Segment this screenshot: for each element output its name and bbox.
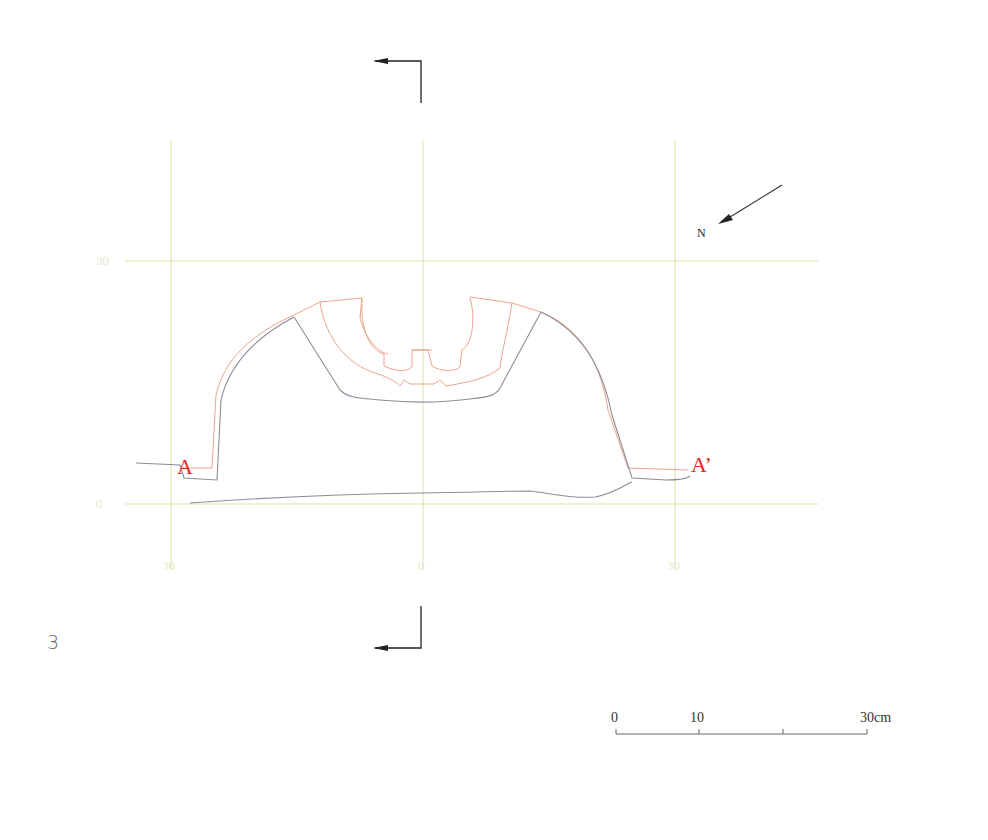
- section-marker-top: [373, 58, 421, 103]
- scale-label-10: 10: [690, 710, 704, 726]
- figure-number: 3: [47, 631, 59, 653]
- section-marker-bottom: [373, 606, 421, 651]
- north-label: N: [697, 226, 706, 241]
- drawing-canvas: [0, 0, 988, 840]
- section-label-end: A’: [691, 452, 712, 478]
- grid-label-x-right-30: 30: [667, 558, 680, 574]
- scale-bar: [616, 729, 867, 734]
- grid-label-x-0: 0: [418, 558, 425, 574]
- grid-label-y-0: 0: [96, 496, 103, 512]
- grid: [125, 140, 818, 570]
- section-label-start: A: [177, 454, 193, 480]
- scale-label-30cm: 30cm: [860, 710, 891, 726]
- vessel-outline-orange: [183, 297, 688, 470]
- vessel-outline-gray: [136, 312, 690, 503]
- north-arrow-icon: [718, 185, 782, 224]
- scale-label-0: 0: [611, 710, 618, 726]
- grid-label-x-left-30: 30: [162, 558, 175, 574]
- grid-label-y-30: 30: [96, 253, 109, 269]
